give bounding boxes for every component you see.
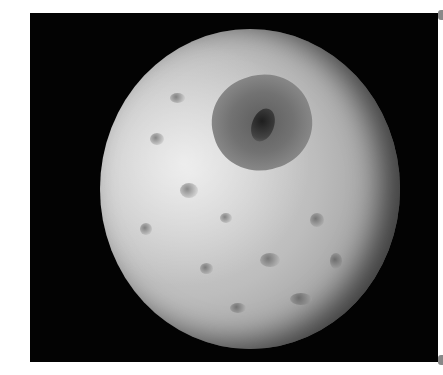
crater: [140, 223, 152, 235]
crater: [150, 133, 164, 145]
crater: [200, 263, 213, 274]
crater: [310, 213, 324, 227]
photo-frame: [30, 13, 438, 362]
crater: [330, 253, 342, 269]
crater: [180, 183, 198, 198]
crater: [290, 293, 312, 305]
edge-mark: [438, 10, 443, 20]
edge-mark: [438, 355, 443, 365]
crater: [220, 213, 232, 223]
crater: [260, 253, 280, 267]
crater: [230, 303, 246, 313]
crater: [170, 93, 185, 103]
